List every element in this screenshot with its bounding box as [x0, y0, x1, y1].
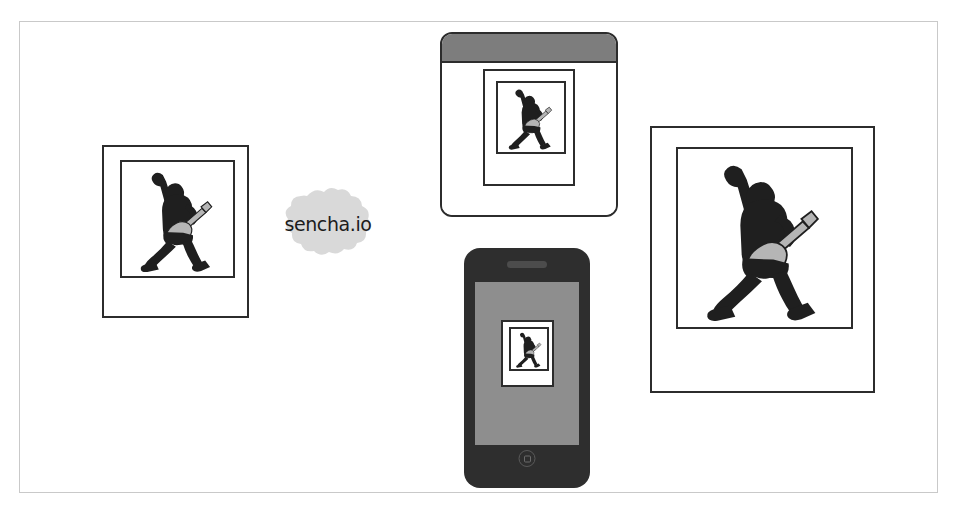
photo-mat [120, 160, 235, 278]
diagram-canvas: sencha.io [0, 0, 961, 514]
framed-photo-browser [483, 69, 575, 186]
photo-mat [509, 327, 549, 371]
guitarist-silhouette-icon [511, 329, 547, 369]
guitarist-silhouette-icon [498, 83, 564, 152]
framed-photo-phone [501, 320, 554, 387]
framed-photo-left [102, 145, 249, 318]
smartphone[interactable] [464, 248, 590, 488]
phone-home-button[interactable] [519, 450, 536, 467]
guitarist-silhouette-icon [122, 162, 233, 276]
phone-speaker-icon [507, 261, 547, 268]
cloud-label: sencha.io [277, 213, 379, 235]
sencha-io-cloud: sencha.io [277, 186, 379, 268]
framed-photo-right [650, 126, 875, 393]
guitarist-silhouette-icon [678, 149, 851, 327]
photo-mat [676, 147, 853, 329]
photo-mat [496, 81, 566, 154]
browser-content [442, 63, 616, 215]
desktop-browser-window[interactable] [440, 32, 618, 217]
phone-screen[interactable] [475, 282, 579, 445]
browser-titlebar [442, 34, 616, 63]
